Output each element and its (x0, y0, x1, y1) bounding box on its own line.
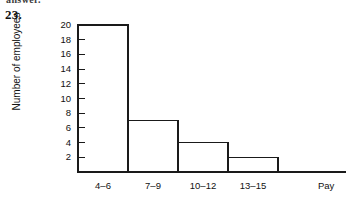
bar (78, 25, 128, 172)
bar (228, 157, 278, 172)
bar (128, 121, 178, 172)
histogram-figure: answer. 23. Number of employees 24681012… (0, 0, 350, 199)
chart-area: Number of employees 2468101214161820 4–6… (0, 0, 350, 199)
bar-series (78, 25, 278, 172)
plot-svg (0, 0, 350, 199)
bar (178, 143, 228, 172)
